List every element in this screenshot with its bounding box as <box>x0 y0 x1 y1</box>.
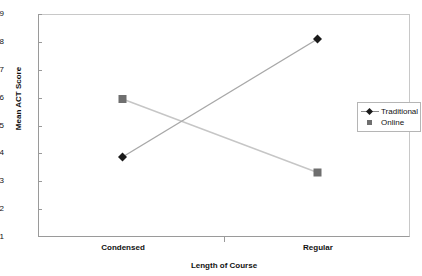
legend: Traditional Online <box>357 102 421 132</box>
y-tick-mark <box>38 126 42 127</box>
y-tick-label: 25 <box>0 122 4 130</box>
y-tick-label: 21 <box>0 233 4 241</box>
y-tick-label: 29 <box>0 10 4 18</box>
x-tick-label-regular: Regular <box>273 243 363 252</box>
legend-item-traditional: Traditional <box>361 106 418 117</box>
y-tick-label: 27 <box>0 66 4 74</box>
x-axis-center-tick <box>224 237 225 242</box>
diamond-with-line-icon <box>361 106 379 117</box>
y-tick-mark <box>38 209 42 210</box>
y-tick-mark <box>38 153 42 154</box>
y-tick-mark <box>38 14 42 15</box>
y-tick-label: 23 <box>0 177 4 185</box>
legend-label: Online <box>379 118 404 127</box>
y-tick-label: 22 <box>0 205 4 213</box>
square-icon <box>361 117 379 128</box>
y-axis-title: Mean ACT Score <box>14 29 23 169</box>
plot-area <box>38 14 410 237</box>
y-tick-mark <box>38 70 42 71</box>
x-axis-title: Length of Course <box>38 261 410 270</box>
legend-label: Traditional <box>379 107 418 116</box>
legend-item-online: Online <box>361 117 418 128</box>
y-tick-mark <box>38 98 42 99</box>
x-tick-label-condensed: Condensed <box>78 243 168 252</box>
y-tick-mark <box>38 42 42 43</box>
y-tick-label: 24 <box>0 149 4 157</box>
y-tick-label: 28 <box>0 38 4 46</box>
line-chart: 29 28 27 26 25 24 23 22 21 Mean ACT Scor… <box>0 0 422 276</box>
y-tick-mark <box>38 181 42 182</box>
y-tick-label: 26 <box>0 94 4 102</box>
